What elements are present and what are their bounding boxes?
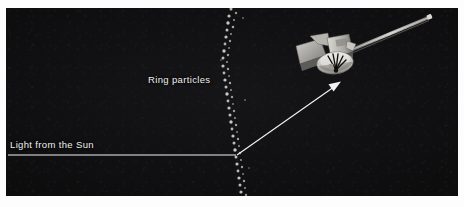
space-grain-texture (6, 8, 458, 196)
space-background-panel (6, 8, 458, 196)
label-light-from-the-sun: Light from the Sun (10, 139, 94, 150)
space-vignette (6, 8, 458, 196)
scattering-diagram-figure: Ring particles Light from the Sun (0, 0, 464, 207)
label-ring-particles: Ring particles (148, 74, 210, 85)
